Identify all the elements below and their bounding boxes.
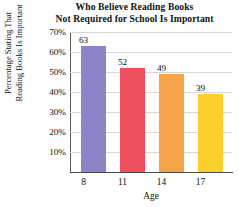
y-tick-label-10: 10%: [36, 148, 66, 157]
y-tick-label-60: 60%: [36, 48, 66, 57]
x-tick-label-8: 8: [68, 178, 99, 187]
y-axis-label: Percentage Stating That Reading Books Is…: [3, 0, 29, 123]
chart-title-line-1: Who Believe Reading Books: [32, 1, 237, 13]
bar-age-17[interactable]: [198, 94, 223, 172]
plot-area: [70, 32, 232, 172]
y-axis-label-line-1: Percentage Stating That: [3, 0, 14, 123]
x-axis-line: [70, 172, 233, 173]
x-tick-label-17: 17: [185, 178, 216, 187]
x-tick-label-14: 14: [146, 178, 177, 187]
bar-value-label-14: 49: [146, 64, 177, 73]
chart-title: Who Believe Reading Books Not Required f…: [32, 1, 237, 24]
y-tick-label-30: 30%: [36, 108, 66, 117]
x-axis-label: Age: [70, 192, 232, 201]
bar-age-11[interactable]: [120, 68, 145, 172]
y-tick-label-50: 50%: [36, 68, 66, 77]
bar-age-14[interactable]: [159, 74, 184, 172]
bar-value-label-8: 63: [68, 36, 99, 45]
y-tick-label-40: 40%: [36, 88, 66, 97]
x-tick-label-11: 11: [107, 178, 138, 187]
y-axis-label-line-2: Reading Books Is Important: [14, 0, 25, 123]
y-tick-label-70: 70%: [36, 28, 66, 37]
bar-value-label-17: 39: [185, 84, 216, 93]
y-tick-label-20: 20%: [36, 128, 66, 137]
chart-title-line-2: Not Required for School Is Important: [32, 13, 237, 25]
bar-age-8[interactable]: [81, 46, 106, 172]
gridline-70: [70, 32, 232, 33]
bar-value-label-11: 52: [107, 58, 138, 67]
